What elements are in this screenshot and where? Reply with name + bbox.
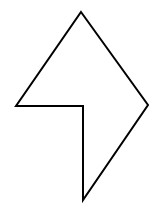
diagram-canvas: [0, 0, 162, 216]
polygon-figure: [0, 0, 162, 216]
concave-pentagon-shape: [16, 12, 148, 200]
